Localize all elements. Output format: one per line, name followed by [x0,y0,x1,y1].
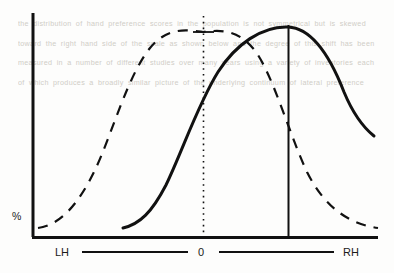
dashed-distribution-curve [38,30,378,228]
x-axis-label-zero: 0 [198,246,204,258]
x-axis-label-left-hand: LH [55,246,69,258]
solid-distribution-curve [123,27,374,228]
y-axis-label-percent: % [12,210,21,222]
x-axis-label-right-hand: RH [343,246,359,258]
distribution-figure: the distribution of hand preference scor… [0,0,394,273]
plot-canvas [0,0,394,273]
